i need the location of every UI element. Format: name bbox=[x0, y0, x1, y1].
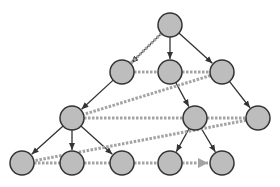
tree-node-n5 bbox=[183, 106, 207, 130]
tree-node-n4 bbox=[60, 106, 84, 130]
tree-node-n8 bbox=[60, 151, 84, 175]
tree-nodes bbox=[10, 13, 270, 175]
tree-node-n9 bbox=[110, 151, 134, 175]
tree-node-n11 bbox=[210, 151, 234, 175]
tree-node-n0 bbox=[158, 13, 182, 37]
tree-edge-n5-n11 bbox=[201, 128, 215, 152]
tree-edge-n3-n6 bbox=[229, 81, 250, 107]
tree-edges bbox=[32, 33, 250, 154]
tree-edge-n2-n5 bbox=[176, 83, 189, 107]
tree-edge-n0-n3 bbox=[179, 33, 212, 63]
tree-node-n2 bbox=[158, 60, 182, 84]
traversal-path bbox=[34, 33, 246, 163]
tree-node-n3 bbox=[210, 60, 234, 84]
tree-node-n10 bbox=[158, 151, 182, 175]
tree-node-n1 bbox=[110, 60, 134, 84]
tree-edge-n1-n4 bbox=[82, 80, 114, 109]
tree-edge-n4-n7 bbox=[32, 126, 63, 154]
tree-node-n6 bbox=[246, 106, 270, 130]
traversal-edge-n0-n1 bbox=[131, 33, 162, 63]
bfs-tree-diagram bbox=[0, 0, 280, 187]
tree-node-n7 bbox=[10, 151, 34, 175]
